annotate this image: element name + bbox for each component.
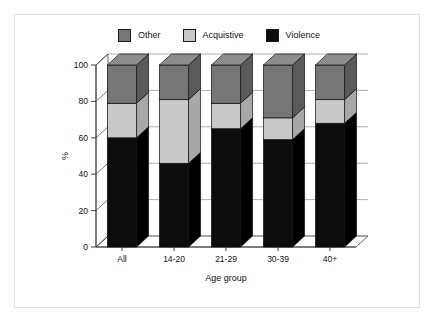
x-tick-label: 14-20 xyxy=(163,254,185,264)
bar-segment-front[interactable] xyxy=(315,123,344,247)
plot-area-wrapper: 020406080100%All14-2021-2930-3940+Age gr… xyxy=(0,0,435,323)
bar-segment-front[interactable] xyxy=(107,65,136,103)
bar-segment-front[interactable] xyxy=(159,163,188,247)
y-tick-label: 80 xyxy=(79,96,89,106)
x-tick-label: 30-39 xyxy=(267,254,289,264)
bar-segment-side xyxy=(189,89,201,164)
bar-segment-front[interactable] xyxy=(211,65,240,103)
bar-segment-side xyxy=(241,118,253,247)
bar-segment-side xyxy=(293,129,305,247)
figure-root: Other Acquistive Violence 020406080100%A… xyxy=(0,0,435,323)
bar-segment-front[interactable] xyxy=(315,65,344,100)
bar-segment-front[interactable] xyxy=(107,103,136,138)
x-tick-label: 40+ xyxy=(323,254,337,264)
chart-canvas: 020406080100%All14-2021-2930-3940+Age gr… xyxy=(0,0,435,323)
y-tick-label: 20 xyxy=(79,206,89,216)
bar-segment-front[interactable] xyxy=(159,100,188,164)
y-tick-label: 40 xyxy=(79,169,89,179)
bar-segment-side xyxy=(137,127,149,247)
bar-segment-front[interactable] xyxy=(211,103,240,128)
bar-segment-front[interactable] xyxy=(263,140,292,247)
bar-segment-front[interactable] xyxy=(315,100,344,124)
bar-segment-front[interactable] xyxy=(263,65,292,118)
bar-segment-side xyxy=(189,152,201,247)
x-tick-label: 21-29 xyxy=(215,254,237,264)
plot-left-wall xyxy=(96,54,108,247)
y-tick-label: 100 xyxy=(74,60,88,70)
y-tick-label: 60 xyxy=(79,133,89,143)
bar-segment-front[interactable] xyxy=(159,65,188,100)
x-tick-label: All xyxy=(117,254,127,264)
y-tick-label: 0 xyxy=(83,242,88,252)
bar-segment-front[interactable] xyxy=(107,138,136,247)
y-axis-title: % xyxy=(60,152,70,160)
bar-segment-front[interactable] xyxy=(263,118,292,140)
bar-segment-front[interactable] xyxy=(211,129,240,247)
bar-segment-side xyxy=(345,112,357,247)
x-axis-title: Age group xyxy=(205,273,247,283)
